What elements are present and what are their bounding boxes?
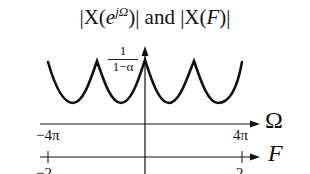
- peak-denominator: 1−α: [108, 60, 138, 74]
- f-axis-name: F: [268, 140, 283, 167]
- spectrum-plot: [0, 0, 310, 174]
- peak-numerator: 1: [108, 44, 138, 60]
- omega-axis-arrow-icon: [250, 121, 260, 128]
- omega-left-label: −4π: [36, 127, 60, 144]
- f-left-label: −2: [36, 165, 52, 174]
- f-right-label: 2: [236, 165, 244, 174]
- f-axis-arrow-icon: [250, 154, 260, 161]
- vertical-axis-arrow-icon: [142, 46, 149, 56]
- omega-right-label: 4π: [233, 127, 248, 144]
- peak-value-label: 1 1−α: [108, 44, 138, 74]
- omega-axis-name: Ω: [265, 107, 283, 134]
